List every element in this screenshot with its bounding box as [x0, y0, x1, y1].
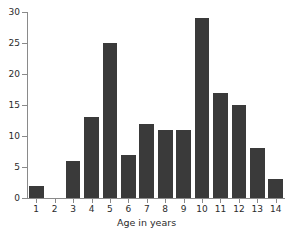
- bar: [139, 124, 154, 198]
- bar: [121, 155, 136, 198]
- x-tick-label: 1: [27, 205, 45, 214]
- x-tick-label: 3: [64, 205, 82, 214]
- x-tick-mark: [257, 199, 258, 203]
- x-tick-label: 14: [267, 205, 285, 214]
- x-tick-mark: [276, 199, 277, 203]
- x-tick-label: 8: [156, 205, 174, 214]
- x-tick-label: 11: [212, 205, 230, 214]
- y-tick-label: 15: [0, 101, 20, 110]
- bar: [29, 186, 44, 198]
- x-tick-label: 2: [46, 205, 64, 214]
- x-tick-mark: [165, 199, 166, 203]
- x-tick-mark: [110, 199, 111, 203]
- y-tick-label: 20: [0, 70, 20, 79]
- x-tick-mark: [184, 199, 185, 203]
- y-tick-label: 5: [0, 163, 20, 172]
- y-tick-mark: [22, 198, 27, 199]
- y-tick-label: 30: [0, 8, 20, 17]
- x-tick-label: 12: [230, 205, 248, 214]
- x-axis-line: [27, 198, 285, 199]
- bar: [176, 130, 191, 198]
- x-tick-mark: [239, 199, 240, 203]
- x-axis-title: Age in years: [0, 218, 293, 228]
- x-tick-mark: [128, 199, 129, 203]
- x-tick-mark: [55, 199, 56, 203]
- bar: [66, 161, 81, 198]
- bar: [84, 117, 99, 198]
- x-tick-mark: [147, 199, 148, 203]
- x-tick-label: 7: [138, 205, 156, 214]
- bar: [268, 179, 283, 198]
- bar: [103, 43, 118, 198]
- bar: [213, 93, 228, 198]
- x-tick-label: 5: [101, 205, 119, 214]
- x-tick-mark: [220, 199, 221, 203]
- bar-chart: 051015202530 1234567891011121314 Age in …: [0, 0, 293, 235]
- y-tick-label: 0: [0, 194, 20, 203]
- x-tick-label: 13: [248, 205, 266, 214]
- x-tick-label: 4: [83, 205, 101, 214]
- y-tick-label: 10: [0, 132, 20, 141]
- x-tick-mark: [73, 199, 74, 203]
- bar: [250, 148, 265, 198]
- x-tick-mark: [202, 199, 203, 203]
- x-tick-label: 6: [119, 205, 137, 214]
- x-tick-mark: [92, 199, 93, 203]
- bar: [195, 18, 210, 198]
- bar: [232, 105, 247, 198]
- bar: [158, 130, 173, 198]
- plot-area: [27, 12, 285, 198]
- x-tick-label: 9: [175, 205, 193, 214]
- x-tick-mark: [36, 199, 37, 203]
- y-tick-label: 25: [0, 39, 20, 48]
- x-tick-label: 10: [193, 205, 211, 214]
